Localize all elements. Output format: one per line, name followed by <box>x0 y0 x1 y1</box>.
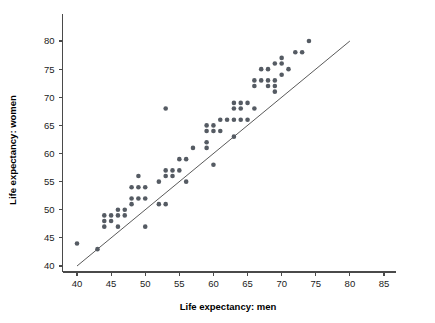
data-point <box>129 196 134 201</box>
data-point <box>307 39 312 44</box>
data-point <box>300 50 305 55</box>
data-point <box>286 67 291 72</box>
data-point <box>184 179 189 184</box>
data-point <box>266 78 271 83</box>
data-point <box>95 247 100 252</box>
data-point <box>116 207 121 212</box>
y-tick-label: 50 <box>44 204 55 215</box>
data-point <box>259 78 264 83</box>
y-tick-label: 65 <box>44 120 55 131</box>
reference-line-group <box>77 41 350 266</box>
data-point <box>163 202 168 207</box>
y-tick-label: 70 <box>44 92 55 103</box>
data-point <box>129 202 134 207</box>
data-point <box>143 196 148 201</box>
y-axis-ticks: 404550556065707580 <box>44 35 63 271</box>
x-tick-label: 80 <box>345 278 356 289</box>
data-point <box>259 67 264 72</box>
data-point <box>232 106 237 111</box>
data-point <box>129 185 134 190</box>
axes-group <box>63 14 397 272</box>
data-point <box>136 185 141 190</box>
data-point <box>184 157 189 162</box>
data-point <box>218 117 223 122</box>
data-point <box>218 129 223 134</box>
data-point <box>238 101 243 106</box>
data-point <box>136 174 141 179</box>
data-point <box>191 146 196 151</box>
y-tick-label: 75 <box>44 64 55 75</box>
data-point <box>157 179 162 184</box>
data-point <box>293 50 298 55</box>
identity-reference-line <box>77 41 350 266</box>
data-point <box>232 134 237 139</box>
data-point <box>163 174 168 179</box>
x-tick-label: 75 <box>310 278 321 289</box>
x-tick-label: 65 <box>242 278 253 289</box>
data-point <box>225 117 230 122</box>
data-point <box>122 213 127 218</box>
data-point <box>266 67 271 72</box>
data-point <box>238 117 243 122</box>
data-point <box>273 89 278 94</box>
data-point <box>279 61 284 66</box>
data-point <box>163 106 168 111</box>
data-point <box>266 84 271 89</box>
y-tick-label: 80 <box>44 35 55 46</box>
x-tick-label: 85 <box>379 278 390 289</box>
data-point <box>143 185 148 190</box>
y-tick-label: 40 <box>44 260 55 271</box>
data-point <box>116 224 121 229</box>
data-points-group <box>75 39 312 252</box>
data-point <box>143 224 148 229</box>
data-point <box>109 219 114 224</box>
data-point <box>102 224 107 229</box>
data-point <box>157 202 162 207</box>
data-point <box>279 72 284 77</box>
data-point <box>177 168 182 173</box>
data-point <box>102 219 107 224</box>
data-point <box>109 213 114 218</box>
y-tick-label: 60 <box>44 148 55 159</box>
data-point <box>232 101 237 106</box>
data-point <box>204 123 209 128</box>
data-point <box>252 84 257 89</box>
x-tick-label: 55 <box>174 278 185 289</box>
data-point <box>279 56 284 61</box>
data-point <box>273 78 278 83</box>
data-point <box>136 196 141 201</box>
x-tick-label: 70 <box>276 278 287 289</box>
data-point <box>273 84 278 89</box>
data-point <box>252 106 257 111</box>
scatter-plot-figure: 40455055606570758085 404550556065707580 … <box>0 0 435 323</box>
data-point <box>252 78 257 83</box>
data-point <box>204 146 209 151</box>
x-tick-label: 45 <box>106 278 117 289</box>
data-point <box>102 213 107 218</box>
data-point <box>204 129 209 134</box>
data-point <box>122 207 127 212</box>
data-point <box>211 123 216 128</box>
plot-canvas: 40455055606570758085 404550556065707580 … <box>0 0 435 323</box>
y-tick-label: 45 <box>44 232 55 243</box>
data-point <box>211 162 216 167</box>
data-point <box>245 117 250 122</box>
data-point <box>75 241 80 246</box>
data-point <box>177 157 182 162</box>
y-tick-label: 55 <box>44 176 55 187</box>
y-axis-title: Life expectancy: women <box>7 95 18 205</box>
data-point <box>211 129 216 134</box>
x-tick-label: 40 <box>72 278 83 289</box>
data-point <box>116 213 121 218</box>
data-point <box>170 168 175 173</box>
x-axis-title: Life expectancy: men <box>180 301 277 312</box>
data-point <box>204 140 209 145</box>
data-point <box>245 101 250 106</box>
data-point <box>238 106 243 111</box>
x-axis-ticks: 40455055606570758085 <box>72 272 390 289</box>
data-point <box>170 174 175 179</box>
x-tick-label: 60 <box>208 278 219 289</box>
data-point <box>232 117 237 122</box>
data-point <box>163 168 168 173</box>
x-tick-label: 50 <box>140 278 151 289</box>
